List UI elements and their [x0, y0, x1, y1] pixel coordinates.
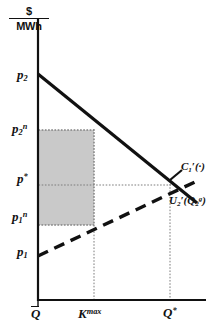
y-tick-label-pstar: p* [17, 172, 28, 185]
shaded-rent-rectangle [39, 130, 95, 225]
y-tick-label-p2: p2 [17, 68, 28, 83]
curve-label-marginal-cost: C1′(·) [181, 161, 205, 174]
y-axis-unit-label: $ MWh [7, 6, 51, 33]
y-axis-unit-numerator: $ [7, 6, 51, 18]
x-tick-label-qstar: Q* [163, 306, 177, 319]
x-tick-label-qbar: Q [31, 306, 40, 320]
curve-label-marginal-utility: U2′(Q2g) [169, 195, 206, 208]
y-tick-label-p2n: p2n [12, 122, 27, 137]
economics-diagram: $ MWh p2 p2n p* p1n p1 Q Kmax Q* C1′(·) … [0, 0, 212, 331]
x-tick-label-kmax: Kmax [78, 307, 101, 320]
y-tick-label-p1: p1 [17, 245, 28, 260]
y-tick-label-p1n: p1n [12, 210, 27, 225]
y-axis-unit-denominator: MWh [7, 19, 51, 33]
